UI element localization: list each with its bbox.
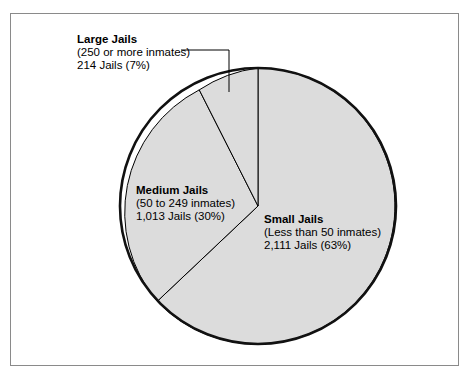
slice-label-medium-jails-range: (50 to 249 inmates) bbox=[136, 197, 235, 210]
slice-label-large-jails-count: 214 Jails (7%) bbox=[77, 59, 190, 72]
pie-chart-graphic bbox=[0, 0, 475, 385]
slice-label-small-jails-count: 2,111 Jails (63%) bbox=[264, 239, 381, 252]
slice-label-large-jails-title: Large Jails bbox=[77, 33, 190, 46]
slice-label-small-jails-title: Small Jails bbox=[264, 213, 381, 226]
slice-label-medium-jails: Medium Jails (50 to 249 inmates) 1,013 J… bbox=[136, 184, 235, 224]
pie-chart-figure: Large Jails (250 or more inmates) 214 Ja… bbox=[0, 0, 475, 385]
slice-label-large-jails: Large Jails (250 or more inmates) 214 Ja… bbox=[77, 33, 190, 73]
slice-label-small-jails: Small Jails (Less than 50 inmates) 2,111… bbox=[264, 213, 381, 253]
slice-label-medium-jails-title: Medium Jails bbox=[136, 184, 235, 197]
slice-label-small-jails-range: (Less than 50 inmates) bbox=[264, 226, 381, 239]
slice-label-medium-jails-count: 1,013 Jails (30%) bbox=[136, 210, 235, 223]
slice-label-large-jails-range: (250 or more inmates) bbox=[77, 46, 190, 59]
